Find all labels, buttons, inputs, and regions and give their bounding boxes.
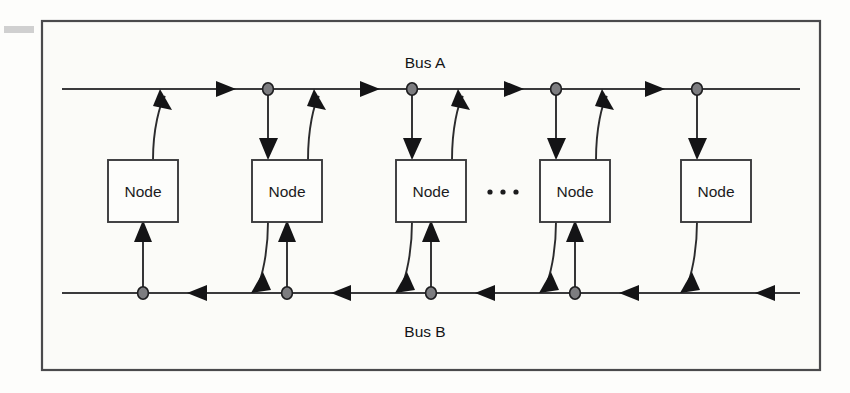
node-label: Node [124,183,161,200]
bus-a-tap-dot [551,83,562,95]
diagram-page: Node Node Node [0,0,850,393]
bus-b-tap-dot [426,287,437,299]
node-label: Node [697,183,734,200]
bus-a-tap-dot [692,83,703,95]
node-label: Node [556,183,593,200]
node-label: Node [412,183,449,200]
bus-a-tap-dot [407,83,418,95]
bus-a-label: Bus A [405,54,446,71]
bus-network-diagram: Node Node Node [0,0,850,393]
node-label: Node [268,183,305,200]
bus-b-tap-dot [570,287,581,299]
bus-b-label: Bus B [404,323,445,340]
bus-b-tap-dot [138,287,149,299]
bus-b-tap-dot [282,287,293,299]
bus-a-tap-dot [263,83,274,95]
